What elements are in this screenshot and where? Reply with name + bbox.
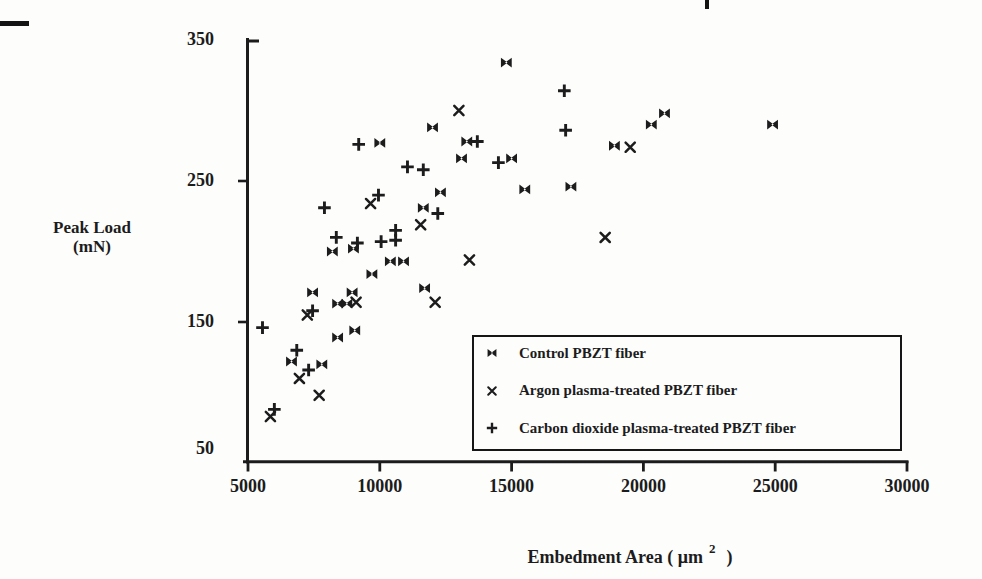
x-marker xyxy=(351,298,360,307)
plus-marker xyxy=(471,135,484,148)
plus-marker xyxy=(417,163,430,176)
filled-bowtie-marker xyxy=(307,287,318,297)
filled-bowtie-marker xyxy=(435,187,446,197)
filled-bowtie-marker xyxy=(316,359,327,369)
x-marker xyxy=(454,106,463,115)
legend-item-label: Argon plasma-treated PBZT fiber xyxy=(519,382,737,399)
filled-bowtie-marker xyxy=(767,120,778,130)
y-axis-title-line2: (mN) xyxy=(34,237,150,256)
filled-bowtie-legend-marker-icon xyxy=(479,344,505,362)
filled-bowtie-marker xyxy=(461,137,472,147)
filled-bowtie-marker xyxy=(398,256,409,266)
x-axis-title-text: Embedment Area ( μm xyxy=(528,547,703,567)
y-tick-label: 350 xyxy=(144,29,214,50)
plus-marker xyxy=(330,231,343,244)
filled-bowtie-marker xyxy=(366,269,377,279)
plus-marker xyxy=(401,161,414,174)
filled-bowtie-marker xyxy=(332,299,343,309)
plus-marker xyxy=(318,201,331,214)
filled-bowtie-marker xyxy=(488,349,497,357)
x-tick-label: 15000 xyxy=(467,476,557,497)
scatter-plot-figure: Peak Load (mN) Embedment Area ( μm2) Con… xyxy=(0,0,982,579)
x-marker xyxy=(465,255,474,264)
filled-bowtie-marker xyxy=(286,357,297,367)
filled-bowtie-marker xyxy=(418,203,429,213)
filled-bowtie-marker xyxy=(519,185,530,195)
legend-box: Control PBZT fiberArgon plasma-treated P… xyxy=(472,335,902,451)
filled-bowtie-marker xyxy=(419,283,430,293)
x-marker xyxy=(431,298,440,307)
x-marker xyxy=(295,374,304,383)
x-tick-label: 20000 xyxy=(598,476,688,497)
filled-bowtie-marker xyxy=(456,154,467,164)
plus-marker xyxy=(375,235,388,248)
legend-item-label: Control PBZT fiber xyxy=(519,345,646,362)
filled-bowtie-marker xyxy=(385,256,396,266)
filled-bowtie-marker xyxy=(427,123,438,133)
plus-marker xyxy=(256,321,269,334)
x-marker xyxy=(626,143,635,152)
x-marker xyxy=(488,387,496,395)
y-axis-title: Peak Load (mN) xyxy=(34,218,150,256)
plus-marker xyxy=(558,84,571,97)
plus-marker xyxy=(389,234,402,247)
plus-marker xyxy=(487,423,497,433)
x-tick-label: 10000 xyxy=(335,476,425,497)
legend-item: Control PBZT fiber xyxy=(474,340,646,366)
plus-marker xyxy=(290,344,303,357)
x-marker xyxy=(601,233,610,242)
filled-bowtie-marker xyxy=(501,58,512,68)
filled-bowtie-marker xyxy=(659,108,670,118)
plus-legend-marker-icon xyxy=(479,419,505,437)
plus-marker xyxy=(492,156,505,169)
plus-marker xyxy=(268,403,281,416)
y-tick-label: 150 xyxy=(144,311,214,332)
x-tick-label: 30000 xyxy=(862,476,952,497)
x-axis-title-superscript: 2 xyxy=(709,541,716,556)
legend-item-label: Carbon dioxide plasma-treated PBZT fiber xyxy=(519,420,796,437)
filled-bowtie-marker xyxy=(332,333,343,343)
filled-bowtie-marker xyxy=(327,247,338,257)
x-marker xyxy=(366,199,375,208)
filled-bowtie-marker xyxy=(349,326,360,336)
x-axis-title: Embedment Area ( μm2) xyxy=(440,547,820,568)
plus-marker xyxy=(431,207,444,220)
filled-bowtie-marker xyxy=(506,154,517,164)
x-tick-label: 5000 xyxy=(203,476,293,497)
legend-item: Carbon dioxide plasma-treated PBZT fiber xyxy=(474,415,796,441)
filled-bowtie-marker xyxy=(347,287,358,297)
legend-item: Argon plasma-treated PBZT fiber xyxy=(474,378,737,404)
filled-bowtie-marker xyxy=(566,182,577,192)
filled-bowtie-marker xyxy=(609,141,620,151)
plus-marker xyxy=(559,124,572,137)
filled-bowtie-marker xyxy=(646,120,657,130)
x-legend-marker-icon xyxy=(479,382,505,400)
x-marker xyxy=(315,391,324,400)
y-axis-title-line1: Peak Load xyxy=(34,218,150,237)
filled-bowtie-marker xyxy=(374,138,385,148)
plus-marker xyxy=(352,138,365,151)
y-tick-label: 250 xyxy=(144,170,214,191)
x-marker xyxy=(416,220,425,229)
series-filled-bowtie xyxy=(286,58,778,370)
x-tick-label: 25000 xyxy=(730,476,820,497)
plus-marker xyxy=(351,237,364,250)
y-tick-label: 50 xyxy=(144,438,214,459)
x-axis-title-close-paren: ) xyxy=(726,547,732,567)
